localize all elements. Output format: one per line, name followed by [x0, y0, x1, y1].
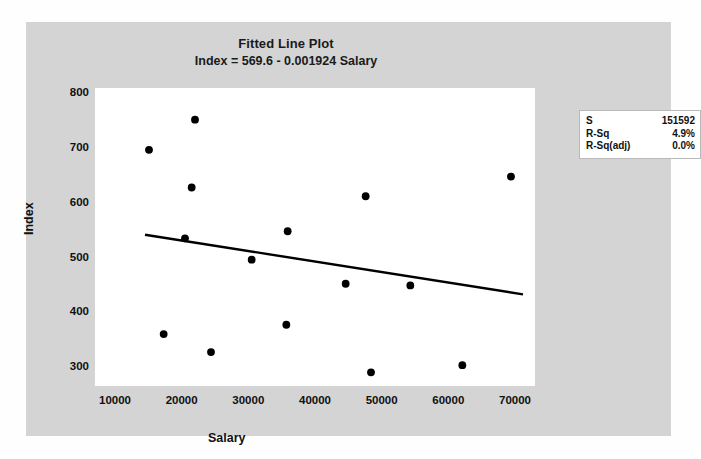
scatter-point — [406, 281, 414, 289]
page-title: Fitted Line Plot — [26, 36, 546, 52]
statistic-row: R-Sq(adj)0.0% — [586, 140, 695, 153]
scatter-point — [282, 321, 290, 329]
x-tick-label: 20000 — [152, 394, 212, 406]
statistic-row: R-Sq4.9% — [586, 128, 695, 141]
y-tick-label: 700 — [43, 141, 89, 153]
statistics-box: S151592R-Sq4.9%R-Sq(adj)0.0% — [579, 110, 701, 159]
chart-background-region: Fitted Line Plot Index = 569.6 - 0.00192… — [26, 22, 671, 436]
statistic-row: S151592 — [586, 115, 695, 128]
y-tick-label: 500 — [43, 251, 89, 263]
y-tick-label: 600 — [43, 196, 89, 208]
scatter-point — [160, 330, 168, 338]
scatter-plot-svg — [95, 88, 535, 386]
scatter-point — [362, 192, 370, 200]
x-tick-label: 40000 — [285, 394, 345, 406]
scatter-point — [191, 116, 199, 124]
chart-subtitle-equation: Index = 569.6 - 0.001924 Salary — [26, 53, 546, 69]
x-tick-label: 60000 — [418, 394, 478, 406]
statistic-key: R-Sq — [586, 128, 609, 141]
scatter-point — [188, 184, 196, 192]
y-tick-label: 400 — [43, 305, 89, 317]
scatter-point — [342, 280, 350, 288]
scatter-point — [207, 348, 215, 356]
statistic-key: R-Sq(adj) — [586, 140, 630, 153]
statistic-key: S — [586, 115, 593, 128]
statistic-value: 0.0% — [672, 140, 695, 153]
scatter-point — [284, 227, 292, 235]
regression-fit-line — [145, 235, 523, 295]
scatter-point — [507, 173, 515, 181]
x-tick-label: 50000 — [352, 394, 412, 406]
y-axis-label: Index — [22, 202, 36, 235]
y-tick-label: 300 — [43, 360, 89, 372]
x-tick-label: 10000 — [85, 394, 145, 406]
plot-panel — [95, 88, 535, 386]
fit-line — [145, 235, 523, 295]
statistic-value: 151592 — [662, 115, 695, 128]
scatter-points-group — [145, 116, 515, 376]
x-tick-label: 30000 — [218, 394, 278, 406]
scatter-point — [181, 234, 189, 242]
scatter-point — [458, 361, 466, 369]
y-tick-label: 800 — [43, 86, 89, 98]
scatter-point — [248, 256, 256, 264]
scatter-point — [145, 146, 153, 154]
x-tick-label: 70000 — [485, 394, 545, 406]
statistic-value: 4.9% — [672, 128, 695, 141]
scatter-point — [367, 368, 375, 376]
x-axis-label: Salary — [208, 431, 246, 445]
chart-title-block: Fitted Line Plot Index = 569.6 - 0.00192… — [26, 36, 546, 69]
